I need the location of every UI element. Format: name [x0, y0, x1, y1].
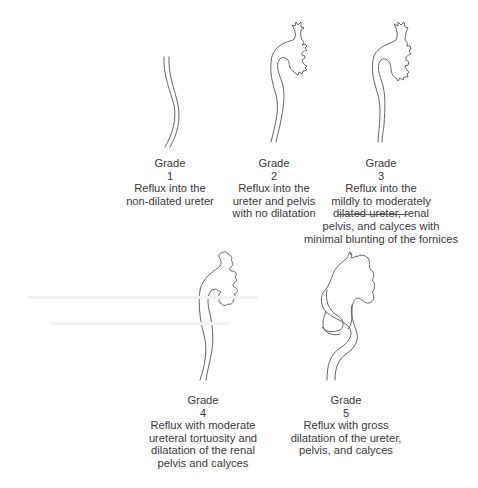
- grade-3-desc-line: mildly to moderately: [304, 195, 458, 208]
- grade-5-desc-line: Reflux with gross: [291, 419, 402, 432]
- grade-5-number: 5: [291, 407, 402, 420]
- grade-3-desc-line: pelvis, and calyces with: [304, 220, 458, 233]
- grade-1-label: Grade 1 Reflux into the non-dilated uret…: [126, 157, 214, 207]
- grade-5-label: Grade 5 Reflux with gross dilatation of …: [291, 394, 402, 457]
- grade-1-desc-line: non-dilated ureter: [126, 195, 214, 208]
- grade-5-gross-dilatation-illustration: [321, 252, 374, 380]
- grade-4-label: Grade 4 Reflux with moderate ureteral to…: [149, 394, 257, 470]
- scan-bleed-artifact: [50, 322, 230, 325]
- grade-4-number: 4: [149, 407, 257, 420]
- grade-3-desc-line: Reflux into the: [304, 182, 458, 195]
- grade-5-desc-line: pelvis, and calyces: [291, 444, 402, 457]
- grade-1-number: 1: [126, 170, 214, 183]
- grade-4-heading: Grade: [149, 394, 257, 407]
- grade-4-desc-line: dilatation of the renal: [149, 444, 257, 457]
- grade-5-heading: Grade: [291, 394, 402, 407]
- grade-2-ureter-pelvis-illustration: [271, 22, 307, 142]
- grade-4-desc-line: ureteral tortuosity and: [149, 432, 257, 445]
- grade-3-heading: Grade: [304, 157, 458, 170]
- grade-4-desc-line: pelvis and calyces: [149, 457, 257, 470]
- scan-artifact-line: [338, 214, 408, 215]
- grade-3-label: Grade 3 Reflux into the mildly to modera…: [304, 157, 458, 245]
- scan-bleed-artifact: [28, 296, 258, 299]
- grade-1-heading: Grade: [126, 157, 214, 170]
- grade-4-tortuous-illustration: [199, 252, 237, 380]
- grade-3-number: 3: [304, 170, 458, 183]
- grade-5-desc-line: dilatation of the ureter,: [291, 432, 402, 445]
- grade-3-desc-line: minimal blunting of the fornices: [304, 233, 458, 246]
- grade-1-desc-line: Reflux into the: [126, 182, 214, 195]
- grade-3-dilated-illustration: [372, 22, 411, 142]
- grade-1-ureter-illustration: [164, 57, 179, 147]
- grade-4-desc-line: Reflux with moderate: [149, 419, 257, 432]
